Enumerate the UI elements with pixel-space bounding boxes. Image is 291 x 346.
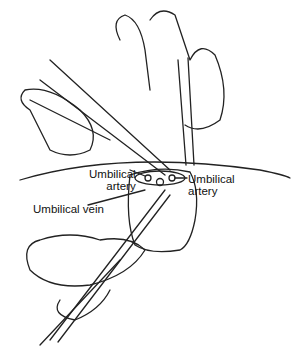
label-line: Umbilical [188,173,235,185]
label-line: Umbilical vein [33,203,104,215]
label-umbilical-artery-left: Umbilical artery [89,168,136,192]
label-umbilical-vein: Umbilical vein [33,203,104,215]
label-umbilical-artery-right: Umbilical artery [188,173,235,197]
umbilical-catheterization-drawing [0,0,291,346]
label-line: Umbilical [89,168,136,180]
label-line: artery [89,180,136,192]
label-line: artery [188,185,235,197]
